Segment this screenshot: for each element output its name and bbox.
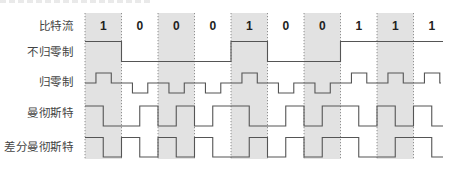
bit-value-label: 1 — [85, 19, 121, 33]
bit-value-label: 0 — [268, 19, 304, 33]
bit-value-label: 0 — [195, 19, 231, 33]
bit-value-label: 0 — [304, 19, 340, 33]
bit-value-label: 0 — [158, 19, 194, 33]
encoding-diagram: 比特流 不归零制 归零制 曼彻斯特 差分曼彻斯特 1000100111 — [0, 0, 452, 170]
bit-value-label: 1 — [377, 19, 413, 33]
bit-value-label: 1 — [341, 19, 377, 33]
bit-value-label: 0 — [122, 19, 158, 33]
bit-value-label: 1 — [231, 19, 267, 33]
bit-value-label: 1 — [414, 19, 450, 33]
